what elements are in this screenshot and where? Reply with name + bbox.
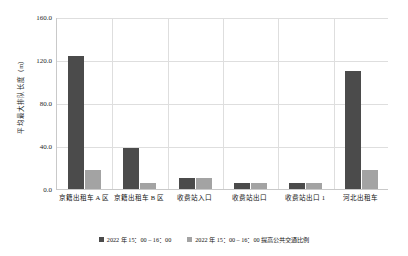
y-axis-tick-label: 40.0 bbox=[6, 143, 52, 151]
bar[interactable] bbox=[362, 170, 378, 189]
bar[interactable] bbox=[234, 183, 250, 189]
y-axis-tick-label: 80.0 bbox=[6, 100, 52, 108]
bar[interactable] bbox=[179, 178, 195, 189]
legend-item[interactable]: 2022 年 15：00 – 16：00 bbox=[99, 235, 171, 244]
bar[interactable] bbox=[306, 183, 322, 189]
x-axis-tick-label: 收费站出口 bbox=[222, 192, 277, 204]
bar-group bbox=[278, 18, 333, 189]
x-axis-tick-label: 河北出租车 bbox=[333, 192, 388, 204]
bar[interactable] bbox=[68, 56, 84, 189]
chart-legend: 2022 年 15：00 – 16：002022 年 15：00 – 16：00… bbox=[0, 231, 408, 247]
legend-label: 2022 年 15：00 – 16：00 提高公共交通比例 bbox=[195, 235, 309, 244]
bars-layer bbox=[57, 18, 388, 189]
bar[interactable] bbox=[85, 170, 101, 189]
bar[interactable] bbox=[140, 183, 156, 189]
bar-group bbox=[168, 18, 223, 189]
x-axis-tick-label: 收费站出口 1 bbox=[277, 192, 332, 204]
bar[interactable] bbox=[123, 148, 139, 189]
y-axis-tick-label: 0.0 bbox=[6, 186, 52, 194]
bar[interactable] bbox=[251, 183, 267, 189]
x-axis-tick-labels: 京籍出租车 A 区京籍出租车 B 区收费站入口收费站出口收费站出口 1河北出租车 bbox=[56, 192, 388, 208]
y-axis-tick-label: 120.0 bbox=[6, 57, 52, 65]
x-axis-tick-label: 京籍出租车 B 区 bbox=[111, 192, 166, 204]
bar-group bbox=[334, 18, 389, 189]
bar-group bbox=[112, 18, 167, 189]
legend-item[interactable]: 2022 年 15：00 – 16：00 提高公共交通比例 bbox=[187, 235, 309, 244]
bar-group bbox=[57, 18, 112, 189]
legend-label: 2022 年 15：00 – 16：00 bbox=[107, 235, 171, 244]
x-axis-tick-label: 收费站入口 bbox=[167, 192, 222, 204]
bar[interactable] bbox=[196, 178, 212, 189]
legend-swatch-icon bbox=[99, 237, 104, 242]
x-axis-tick-label: 京籍出租车 A 区 bbox=[56, 192, 111, 204]
bar-chart: 平均最大排队长度（m） 0.040.080.0120.0160.0 京籍出租车 … bbox=[0, 0, 408, 256]
bar[interactable] bbox=[289, 183, 305, 189]
bar-group bbox=[223, 18, 278, 189]
legend-swatch-icon bbox=[187, 237, 192, 242]
plot-area bbox=[56, 18, 388, 190]
y-axis-tick-label: 160.0 bbox=[6, 14, 52, 22]
y-axis-tick-labels: 0.040.080.0120.0160.0 bbox=[0, 18, 52, 190]
bar[interactable] bbox=[345, 71, 361, 189]
